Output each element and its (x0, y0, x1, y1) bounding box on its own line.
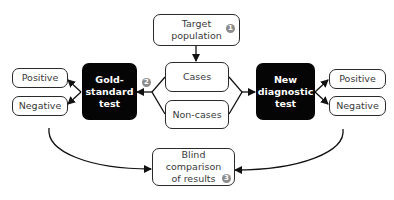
gold-standard-test-box: Gold- standard test (82, 63, 137, 120)
step-badge-1: 1 (226, 24, 235, 33)
step-badge-2: 2 (142, 78, 151, 87)
new-test-line3: test (258, 98, 314, 110)
cases-box: Cases (165, 62, 229, 92)
non-cases-box: Non-cases (165, 100, 229, 129)
gold-standard-line3: test (85, 98, 133, 110)
gold-standard-line1: Gold- (85, 74, 133, 86)
new-positive-box: Positive (329, 69, 386, 89)
new-test-line2: diagnostic (258, 86, 314, 98)
target-population-line1: Target (171, 18, 222, 30)
gold-negative-label: Negative (19, 100, 62, 112)
step-badge-3: 3 (222, 174, 231, 183)
new-negative-label: Negative (336, 100, 379, 112)
new-positive-label: Positive (339, 73, 376, 85)
target-population-line2: population (171, 30, 222, 42)
gold-negative-box: Negative (12, 96, 68, 116)
comparison-line1: Blind comparison (153, 149, 234, 173)
gold-positive-box: Positive (12, 68, 68, 88)
gold-standard-line2: standard (85, 86, 133, 98)
cases-label: Cases (183, 71, 211, 83)
new-test-line1: New (258, 74, 314, 86)
gold-positive-label: Positive (22, 72, 59, 84)
non-cases-label: Non-cases (172, 109, 221, 121)
new-diagnostic-test-box: New diagnostic test (256, 63, 315, 120)
new-negative-box: Negative (329, 96, 386, 116)
